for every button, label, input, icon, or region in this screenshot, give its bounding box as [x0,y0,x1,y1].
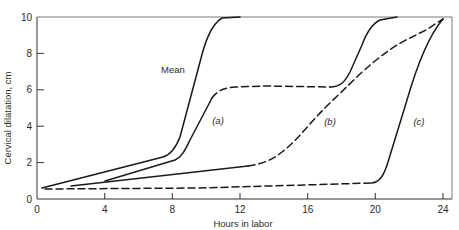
label-a: (a) [212,115,224,126]
x-tick-8: 8 [170,204,176,215]
x-tick-4: 4 [102,204,108,215]
x-tick-24: 24 [437,204,449,215]
curve-b-dashed-rise [248,19,443,166]
curve-b-solid-start [71,166,248,186]
y-axis-title: Cervical dilatation, cm [2,71,13,164]
y-tick-4: 4 [26,121,32,132]
curve-a-dashed-plateau [212,86,330,98]
x-ticks [105,193,443,199]
label-c: (c) [413,116,424,127]
labor-curve-chart: 0 2 4 6 8 10 0 4 8 12 16 20 24 Hours in … [0,0,459,230]
y-tick-10: 10 [21,12,33,23]
curve-a-solid-start [105,98,212,181]
y-tick-6: 6 [26,84,32,95]
label-b: (b) [324,116,336,127]
label-mean: Mean [161,64,185,75]
curve-c-solid-rise [372,19,443,183]
y-ticks [37,53,44,162]
y-tick-2: 2 [26,157,32,168]
plot-frame [37,17,452,199]
y-tick-8: 8 [26,48,32,59]
x-tick-20: 20 [370,204,382,215]
x-tick-16: 16 [302,204,314,215]
x-axis-title: Hours in labor [213,218,272,229]
y-tick-labels: 0 2 4 6 8 10 [21,12,33,205]
y-tick-0: 0 [26,194,32,205]
x-tick-labels: 0 4 8 12 16 20 24 [34,204,449,215]
x-tick-0: 0 [34,204,40,215]
x-tick-12: 12 [234,204,246,215]
